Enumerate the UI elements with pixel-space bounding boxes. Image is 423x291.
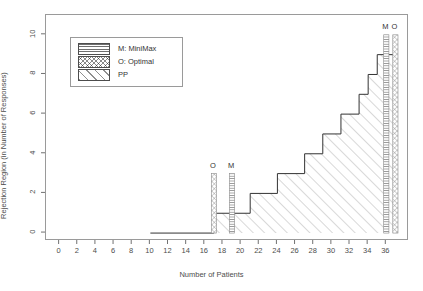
y-tick-label-2: 2 — [29, 186, 37, 198]
bar-m-left — [229, 174, 234, 233]
series-layer — [150, 55, 395, 233]
x-tick-label-22: 22 — [254, 247, 262, 255]
bar-label-o-right: O — [391, 23, 397, 31]
legend-swatch-optimal — [78, 56, 110, 68]
legend-item-optimal: O: Optimal — [78, 56, 178, 68]
x-tick-label-12: 12 — [163, 247, 171, 255]
x-tick-label-8: 8 — [129, 247, 133, 255]
x-tick-label-14: 14 — [182, 247, 190, 255]
legend-label-pp: PP — [118, 71, 128, 79]
x-tick-label-4: 4 — [93, 247, 97, 255]
x-tick-label-34: 34 — [363, 247, 371, 255]
chart-figure: 024681012141618202224262830323436 024681… — [0, 0, 423, 291]
bar-m-right — [384, 35, 389, 233]
x-tick-label-36: 36 — [381, 247, 389, 255]
y-tick-label-4: 4 — [29, 147, 37, 159]
x-tick-label-18: 18 — [218, 247, 226, 255]
legend-label-optimal: O: Optimal — [118, 58, 154, 66]
bar-o-left — [211, 174, 216, 233]
y-tick-label-10: 10 — [29, 28, 37, 40]
x-tick-label-24: 24 — [272, 247, 280, 255]
y-tick-label-0: 0 — [29, 226, 37, 238]
x-tick-label-20: 20 — [236, 247, 244, 255]
x-tick-label-6: 6 — [111, 247, 115, 255]
x-tick-label-26: 26 — [290, 247, 298, 255]
legend-swatch-pp — [78, 69, 110, 81]
bar-label-m-right: M — [382, 23, 388, 31]
bar-o-right — [393, 35, 398, 233]
x-axis-title: Number of Patients — [0, 271, 423, 279]
y-tick-label-8: 8 — [29, 67, 37, 79]
legend-label-minimax: M: MiniMax — [118, 45, 156, 53]
x-tick-label-2: 2 — [75, 247, 79, 255]
y-axis-title: Rejection Region (in Number of Responses… — [0, 0, 8, 291]
x-tick-label-0: 0 — [57, 247, 61, 255]
x-tick-label-28: 28 — [309, 247, 317, 255]
x-tick-label-10: 10 — [145, 247, 153, 255]
legend-item-minimax: M: MiniMax — [78, 43, 178, 55]
x-tick-label-30: 30 — [327, 247, 335, 255]
bar-label-m-left: M — [228, 162, 234, 170]
y-axis-title-text: Rejection Region (in Number of Responses… — [0, 0, 8, 291]
legend-item-pp: PP — [78, 69, 178, 81]
chart-legend: M: MiniMax O: Optimal PP — [70, 37, 183, 87]
pp-area — [150, 55, 395, 233]
legend-swatch-minimax — [78, 43, 110, 55]
y-tick-label-6: 6 — [29, 107, 37, 119]
x-tick-label-32: 32 — [345, 247, 353, 255]
bar-label-o-left: O — [210, 162, 216, 170]
x-tick-label-16: 16 — [200, 247, 208, 255]
